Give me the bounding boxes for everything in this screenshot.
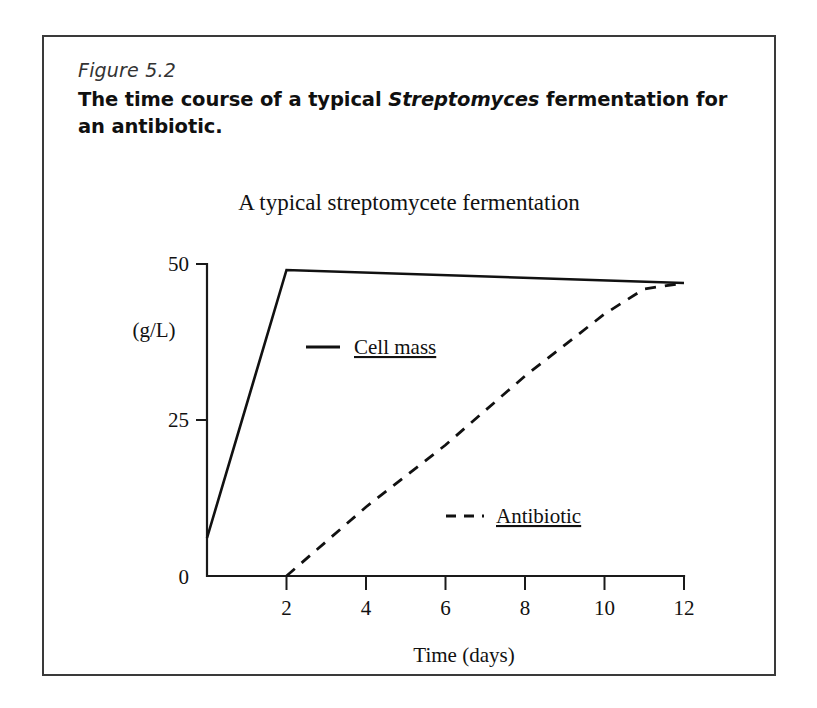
y-tick-label-25: 25 bbox=[168, 408, 189, 432]
legend-label-antibiotic: Antibiotic bbox=[496, 504, 581, 528]
chart-axes bbox=[207, 264, 684, 576]
x-tick-label-4: 4 bbox=[361, 596, 372, 620]
figure-page: Figure 5.2 The time course of a typical … bbox=[0, 0, 817, 708]
x-tick-label-10: 10 bbox=[594, 596, 615, 620]
legend-label-cell-mass: Cell mass bbox=[354, 335, 436, 359]
series-line-antibiotic bbox=[287, 283, 685, 576]
x-tick-label-12: 12 bbox=[674, 596, 695, 620]
figure-frame: Figure 5.2 The time course of a typical … bbox=[42, 35, 776, 676]
x-axis-label: Time (days) bbox=[413, 643, 514, 667]
y-axis-label: (g/L) bbox=[132, 318, 175, 342]
y-tick-label-0: 0 bbox=[179, 565, 190, 589]
chart-svg: 50 25 0 2 4 6 8 10 12 (g/L) Time (days) bbox=[44, 37, 774, 674]
x-tick-label-6: 6 bbox=[440, 596, 451, 620]
y-tick-label-50: 50 bbox=[168, 252, 189, 276]
x-tick-label-8: 8 bbox=[520, 596, 531, 620]
chart-container: A typical streptomycete fermentation 50 … bbox=[44, 37, 774, 674]
x-tick-label-2: 2 bbox=[281, 596, 292, 620]
